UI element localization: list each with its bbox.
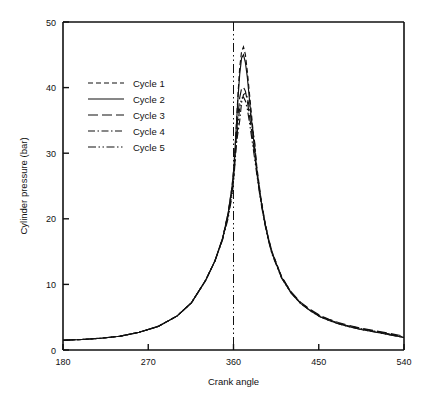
x-axis-title: Crank angle [208, 376, 259, 387]
y-tick-label-20: 20 [46, 214, 56, 224]
chart-legend: Cycle 1 Cycle 2 Cycle 3 Cycle 4 Cycle 5 [88, 78, 165, 153]
x-tick-label-270: 270 [141, 357, 156, 367]
legend-label-cycle-1: Cycle 1 [133, 78, 165, 89]
chart-svg: 0 10 20 30 40 50 180 270 360 450 540 Cra… [0, 0, 422, 401]
legend-label-cycle-5: Cycle 5 [133, 142, 165, 153]
x-tick-label-450: 450 [311, 357, 326, 367]
y-axis-ticks: 0 10 20 30 40 50 [46, 18, 69, 356]
legend-label-cycle-4: Cycle 4 [133, 126, 165, 137]
legend-label-cycle-2: Cycle 2 [133, 94, 165, 105]
y-tick-label-40: 40 [46, 83, 56, 93]
y-tick-label-0: 0 [51, 346, 56, 356]
y-tick-label-50: 50 [46, 18, 56, 28]
x-tick-label-360: 360 [226, 357, 241, 367]
y-tick-label-30: 30 [46, 149, 56, 159]
y-tick-label-10: 10 [46, 280, 56, 290]
chart-figure: 0 10 20 30 40 50 180 270 360 450 540 Cra… [0, 0, 422, 401]
legend-label-cycle-3: Cycle 3 [133, 110, 165, 121]
x-axis-ticks: 180 270 360 450 540 [55, 344, 411, 367]
x-tick-label-180: 180 [55, 357, 70, 367]
x-tick-label-540: 540 [396, 357, 411, 367]
y-axis-title: Cylinder pressure (bar) [18, 137, 29, 234]
